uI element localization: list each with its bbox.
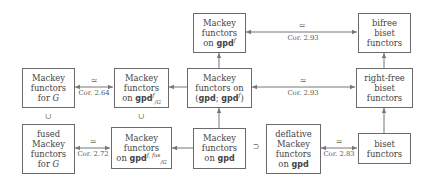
node-text: for G — [38, 93, 60, 103]
node-text: functors — [367, 38, 402, 48]
node-text: on gpdf/G — [122, 93, 161, 104]
node-text: Mackey — [32, 73, 65, 83]
iso-symbol-top: ≃ — [296, 21, 308, 30]
iso-symbol-bottom-left: ≃ — [87, 137, 99, 146]
subset-symbol-mid: ∪ — [135, 112, 147, 121]
node-text: right-free — [364, 73, 405, 83]
node-mackey-functors-on-gpd-pair: Mackey functors on (gpd; gpdf) — [187, 68, 252, 108]
node-text: on gpd — [278, 159, 308, 170]
edge-label-mid: Cor. 2.93 — [278, 89, 328, 97]
node-text: functors — [367, 149, 402, 159]
node-text: functors — [31, 83, 66, 93]
node-bifree-biset-functors: bifree biset functors — [358, 13, 411, 53]
node-text: (gpd; gpdf) — [195, 93, 243, 104]
node-mackey-functors-on-gpdffus-over-G: Mackey functors on gpdf, fus/G — [111, 127, 172, 169]
edge-label-bottom-right: Cor. 2.83 — [318, 150, 360, 158]
node-text: on gpd — [204, 153, 234, 164]
node-text: Mackey — [32, 139, 65, 149]
node-text: Mackey — [125, 73, 158, 83]
node-text: biset — [374, 139, 395, 149]
node-deflative-mackey-functors-on-gpd: deflative Mackey functors on gpd — [266, 124, 321, 174]
iso-symbol-bottom-right: ≃ — [333, 137, 345, 146]
node-text: bifree — [372, 18, 397, 28]
node-text: biset — [374, 83, 395, 93]
node-text: functors — [31, 149, 66, 159]
node-text: functors — [202, 28, 237, 38]
edge-label-left: Cor. 2.64 — [73, 89, 115, 97]
node-mackey-functors-on-gpd: Mackey functors on gpd — [193, 128, 246, 169]
supset-symbol-right: ⊃ — [250, 142, 262, 151]
iso-symbol-mid: ≃ — [297, 76, 309, 85]
node-text: for G — [38, 159, 60, 169]
edge-label-bottom-left: Cor. 2.72 — [72, 150, 114, 158]
node-right-free-biset-functors: right-free biset functors — [356, 68, 413, 108]
iso-symbol-left: ≃ — [88, 76, 100, 85]
node-text: fused — [37, 129, 60, 139]
node-fused-mackey-functors-for-G: fused Mackey functors for G — [22, 124, 75, 174]
node-biset-functors: biset functors — [358, 133, 411, 164]
node-text: deflative — [275, 129, 312, 139]
node-text: functors — [367, 93, 402, 103]
node-text: Mackey — [125, 133, 158, 143]
node-mackey-functors-on-gpdf: Mackey functors on gpdf — [193, 13, 246, 53]
node-text: on gpdf, fus/G — [116, 153, 166, 164]
node-text: functors — [276, 149, 311, 159]
node-text: Mackey — [203, 18, 236, 28]
node-mackey-functors-for-G: Mackey functors for G — [22, 68, 75, 108]
node-text: Mackey — [203, 133, 236, 143]
subset-symbol-left: ∪ — [42, 112, 54, 121]
node-text: functors — [202, 143, 237, 153]
node-mackey-functors-on-gpdf-over-G: Mackey functors on gpdf/G — [114, 68, 169, 108]
node-text: biset — [374, 28, 395, 38]
edge-label-top: Cor. 2.93 — [278, 34, 328, 42]
node-text: on gpdf — [203, 38, 235, 49]
node-text: Mackey — [277, 139, 310, 149]
node-text: functors on — [195, 83, 243, 93]
node-text: Mackey — [203, 73, 236, 83]
